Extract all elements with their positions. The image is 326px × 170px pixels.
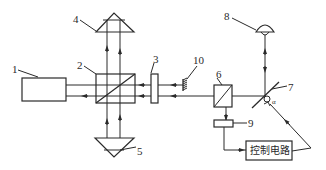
pivot-base [264, 102, 270, 106]
label-3: 3 [153, 53, 159, 65]
label-2: 2 [77, 59, 83, 71]
component-1-box [22, 78, 66, 101]
prism-5 [95, 138, 134, 157]
diagram-canvas: 1 2 4 5 3 10 6 9 控制电路 [0, 0, 326, 170]
label-7: 7 [288, 81, 294, 93]
label-9: 9 [248, 117, 254, 129]
label-5: 5 [137, 145, 143, 157]
prism-4 [96, 13, 134, 32]
angle-alpha: α [272, 98, 276, 106]
label-1: 1 [12, 63, 18, 75]
label-4: 4 [73, 13, 79, 25]
label-10: 10 [193, 54, 205, 66]
pivot-icon [264, 96, 270, 102]
detector-9 [214, 120, 233, 127]
control-circuit-label: 控制电路 [250, 144, 290, 156]
label-6: 6 [216, 68, 222, 80]
plate-3 [151, 74, 158, 103]
reflector-10 [183, 66, 197, 91]
label-8: 8 [224, 10, 230, 22]
lamp-8 [256, 25, 274, 32]
